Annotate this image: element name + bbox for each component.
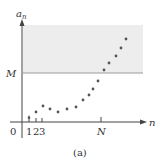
x-axis-arrow-icon <box>140 120 147 125</box>
index-label-N: N <box>96 126 107 137</box>
threshold-label-M: M <box>5 68 17 79</box>
tick-1-arrow-icon <box>28 115 31 119</box>
origin-label: 0 <box>10 126 16 137</box>
sequence-diagram: an n M 0 1 2 3 N (a) <box>0 0 162 166</box>
tick-label-1: 1 <box>26 126 32 137</box>
y-axis-label: an <box>16 8 27 21</box>
x-axis-label: n <box>149 117 155 128</box>
tick-label-3: 3 <box>39 126 45 137</box>
shaded-region-above-M <box>23 25 143 73</box>
figure-caption: (a) <box>73 147 87 158</box>
